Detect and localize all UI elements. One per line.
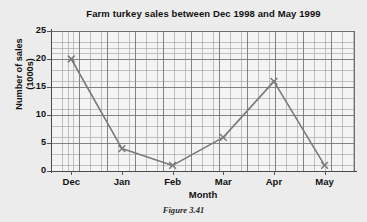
- plot-area: [51, 31, 355, 171]
- plot-right-border: [354, 31, 355, 171]
- x-tick-mark: [325, 171, 326, 175]
- y-axis-line: [51, 29, 52, 173]
- x-tick-mark: [122, 171, 123, 175]
- y-tick-label: 20: [26, 53, 46, 63]
- x-tick-mark: [223, 171, 224, 175]
- y-axis-title-line1: Number of sales: [14, 38, 25, 109]
- y-tick-label: 15: [26, 81, 46, 91]
- figure-caption: Figure 3.41: [0, 205, 367, 215]
- x-tick-mark: [274, 171, 275, 175]
- x-tick-mark: [71, 171, 72, 175]
- y-tick-label: 0: [26, 165, 46, 175]
- x-axis-title: Month: [51, 189, 355, 200]
- x-tick-label-may: May: [295, 176, 355, 187]
- y-tick-label: 25: [26, 25, 46, 35]
- chart-title: Farm turkey sales between Dec 1998 and M…: [51, 8, 356, 19]
- y-tick-label: 5: [26, 137, 46, 147]
- x-tick-mark: [173, 171, 174, 175]
- figure-container: Farm turkey sales between Dec 1998 and M…: [0, 0, 367, 222]
- x-axis-line: [49, 171, 357, 172]
- y-tick-label: 10: [26, 109, 46, 119]
- plot-top-border: [51, 31, 355, 32]
